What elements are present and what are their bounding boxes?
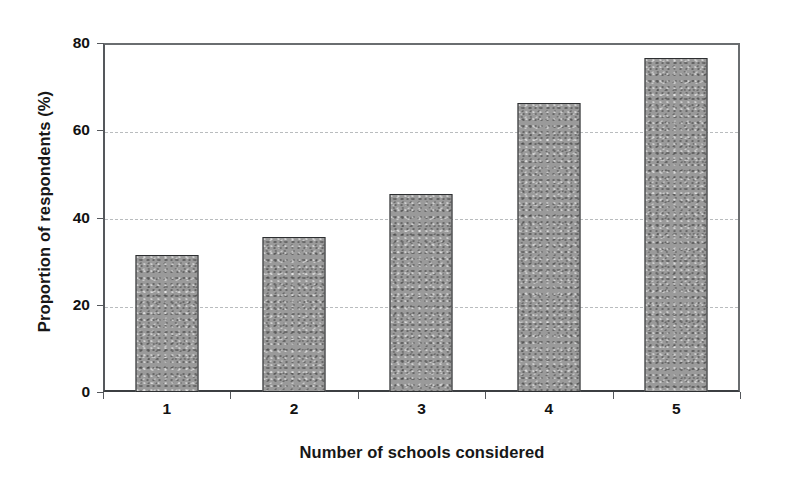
x-tick-label-3: 3 [392, 400, 452, 418]
x-tick-mark-4 [613, 392, 614, 399]
x-axis-title: Number of schools considered [103, 443, 741, 462]
bar-1 [135, 255, 198, 392]
y-tick-label-40: 40 [48, 209, 90, 227]
x-tick-mark-1 [230, 392, 231, 399]
bar-slot-5 [613, 43, 740, 392]
bar-5 [645, 58, 708, 392]
bar-slot-4 [485, 43, 612, 392]
y-tick-label-0: 0 [48, 383, 90, 401]
x-tick-label-2: 2 [264, 400, 324, 418]
x-tick-label-1: 1 [137, 400, 197, 418]
x-tick-mark-5 [740, 392, 741, 399]
x-tick-label-4: 4 [519, 400, 579, 418]
bar-chart: Proportion of respondents (%) 80 60 40 2… [0, 0, 792, 489]
bar-2 [263, 237, 326, 392]
y-tick-label-60: 60 [48, 121, 90, 139]
x-tick-label-5: 5 [646, 400, 706, 418]
bar-slot-3 [358, 43, 485, 392]
x-tick-mark-2 [358, 392, 359, 399]
bar-3 [390, 194, 453, 392]
x-tick-mark-3 [485, 392, 486, 399]
bar-slot-1 [103, 43, 230, 392]
bar-slot-2 [230, 43, 357, 392]
bar-4 [517, 103, 580, 392]
y-tick-label-80: 80 [48, 34, 90, 52]
x-tick-mark-0 [103, 392, 104, 399]
y-tick-label-20: 20 [48, 296, 90, 314]
bars-layer [103, 43, 740, 392]
